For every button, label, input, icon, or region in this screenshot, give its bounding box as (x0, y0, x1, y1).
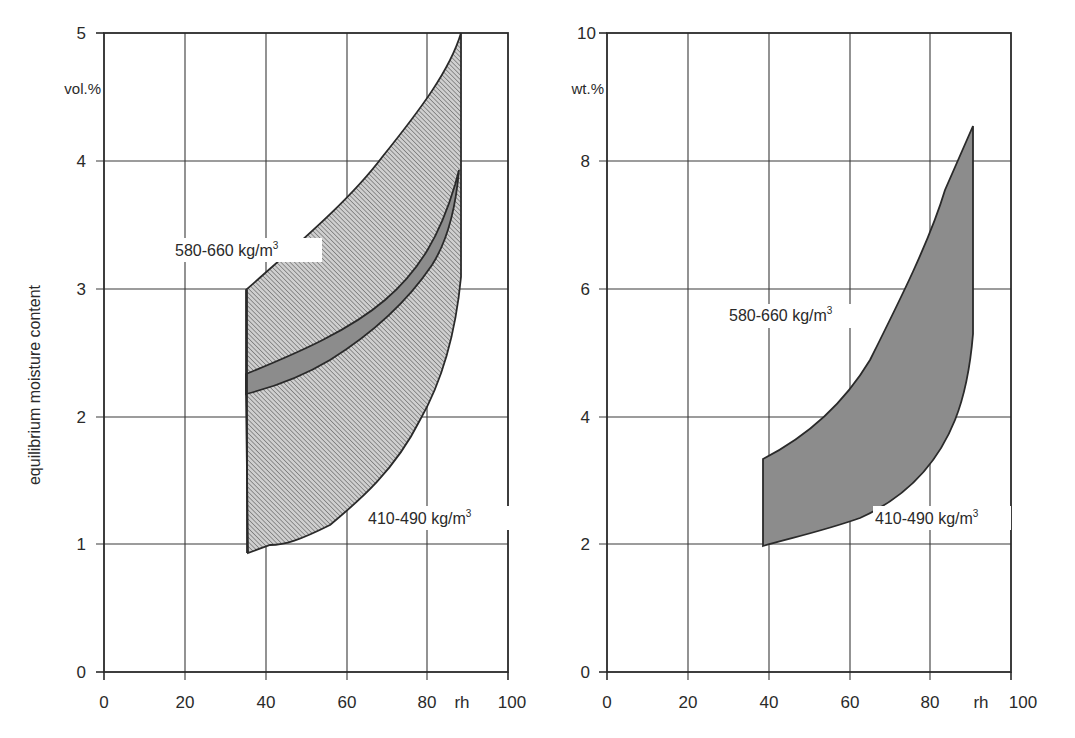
right-label-410-490: 410-490 kg/m3 (875, 508, 979, 527)
left-xtick-20: 20 (176, 693, 195, 712)
right-label-580-660: 580-660 kg/m3 (729, 305, 833, 324)
range-region (763, 126, 973, 546)
left-ytick-4: 4 (77, 152, 86, 171)
left-xtick-80: 80 (418, 693, 437, 712)
left-xtick-40: 40 (257, 693, 276, 712)
left-unit-label: vol.% (64, 80, 101, 97)
right-xtick-20: 20 (679, 693, 698, 712)
right-xtick-100: 100 (1009, 693, 1037, 712)
band-hatched-outer (246, 33, 461, 553)
left-ytick-2: 2 (77, 408, 86, 427)
left-xtick-60: 60 (338, 693, 357, 712)
right-chart: 0 2 4 6 8 10 wt.% 0 20 40 60 80 rh 100 5… (570, 24, 1037, 712)
right-ytick-6: 6 (581, 280, 590, 299)
right-ytick-4: 4 (581, 408, 590, 427)
right-ytick-10: 10 (577, 24, 596, 43)
right-xtick-40: 40 (760, 693, 779, 712)
left-label-580-660: 580-660 kg/m3 (175, 240, 279, 259)
right-xtick-0: 0 (602, 693, 611, 712)
right-unit-label: wt.% (570, 80, 604, 97)
right-ytick-2: 2 (581, 535, 590, 554)
left-ytick-1: 1 (77, 535, 86, 554)
left-ytick-3: 3 (77, 280, 86, 299)
left-label-410-490: 410-490 kg/m3 (368, 508, 472, 527)
right-x-axis-name: rh (973, 693, 988, 712)
left-chart: 0 1 2 3 4 5 vol.% 0 20 40 60 80 rh 100 e… (26, 24, 526, 712)
left-x-axis-name: rh (454, 693, 469, 712)
right-xtick-80: 80 (921, 693, 940, 712)
left-y-axis-title: equilibrium moisture content (26, 284, 43, 485)
left-ytick-5: 5 (77, 24, 86, 43)
right-xtick-60: 60 (841, 693, 860, 712)
right-ytick-8: 8 (581, 152, 590, 171)
left-ytick-0: 0 (77, 663, 86, 682)
left-xtick-0: 0 (99, 693, 108, 712)
right-ytick-0: 0 (581, 663, 590, 682)
left-xtick-100: 100 (498, 693, 526, 712)
figure: 0 1 2 3 4 5 vol.% 0 20 40 60 80 rh 100 e… (0, 0, 1075, 738)
